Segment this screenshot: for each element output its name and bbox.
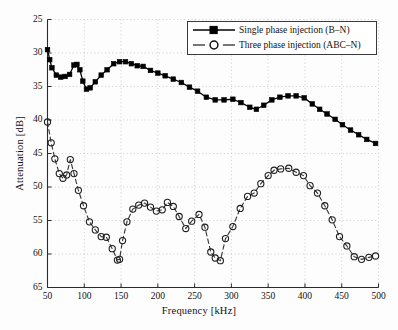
data-point-marker bbox=[159, 207, 165, 213]
data-point-marker bbox=[348, 128, 353, 133]
legend-label-three-phase: Three phase injection (ABC–N) bbox=[236, 40, 361, 50]
data-point-marker bbox=[258, 181, 264, 187]
data-point-marker bbox=[117, 59, 122, 64]
data-point-marker bbox=[300, 173, 306, 179]
data-point-marker bbox=[317, 107, 322, 112]
data-point-marker bbox=[75, 62, 80, 67]
data-point-marker bbox=[358, 256, 364, 262]
data-point-marker bbox=[310, 102, 315, 107]
x-tick-label-200: 200 bbox=[138, 291, 178, 301]
chart-figure: Frequency [kHz] Attenuation [dB] 5010015… bbox=[0, 0, 398, 330]
data-point-marker bbox=[237, 205, 243, 211]
data-series-layer bbox=[44, 47, 378, 263]
data-point-marker bbox=[109, 246, 115, 252]
y-tick-label-45: 45 bbox=[13, 148, 43, 158]
data-point-marker bbox=[71, 171, 77, 177]
x-tick-label-150: 150 bbox=[101, 291, 141, 301]
data-point-marker bbox=[333, 117, 338, 122]
data-point-marker bbox=[213, 98, 218, 103]
data-point-marker bbox=[81, 79, 86, 84]
data-point-marker bbox=[302, 96, 307, 101]
data-point-marker bbox=[48, 140, 54, 146]
data-point-marker bbox=[254, 107, 259, 112]
data-point-marker bbox=[80, 203, 86, 209]
data-point-marker bbox=[67, 156, 73, 162]
data-point-marker bbox=[351, 254, 357, 260]
data-point-marker bbox=[129, 61, 134, 66]
data-point-marker bbox=[217, 258, 223, 264]
data-point-marker bbox=[247, 105, 252, 110]
data-point-marker bbox=[141, 64, 146, 69]
data-point-marker bbox=[294, 94, 299, 99]
series-single-phase bbox=[45, 47, 378, 145]
data-point-marker bbox=[230, 223, 236, 229]
data-point-marker bbox=[202, 224, 208, 230]
data-point-marker bbox=[196, 211, 202, 217]
data-point-marker bbox=[336, 233, 342, 239]
data-point-marker bbox=[153, 208, 159, 214]
y-tick-label-65: 65 bbox=[13, 282, 43, 292]
data-point-marker bbox=[88, 86, 93, 91]
data-point-marker bbox=[93, 80, 98, 85]
data-point-marker bbox=[163, 73, 168, 78]
data-point-marker bbox=[204, 95, 209, 100]
legend-swatch-dashed-circle-line bbox=[192, 38, 236, 52]
data-point-marker bbox=[75, 187, 81, 193]
data-point-marker bbox=[135, 63, 140, 68]
data-point-marker bbox=[119, 238, 125, 244]
data-point-marker bbox=[231, 97, 236, 102]
data-point-marker bbox=[99, 73, 104, 78]
x-tick-label-250: 250 bbox=[175, 291, 215, 301]
data-point-marker bbox=[356, 132, 361, 137]
data-point-marker bbox=[286, 94, 291, 99]
data-point-marker bbox=[47, 57, 52, 62]
data-point-marker bbox=[170, 203, 176, 209]
data-point-marker bbox=[86, 219, 92, 225]
data-point-marker bbox=[366, 254, 372, 260]
y-tick-label-30: 30 bbox=[13, 47, 43, 57]
data-point-marker bbox=[340, 122, 345, 127]
legend-label-single-phase: Single phase injection (B–N) bbox=[236, 25, 350, 35]
data-point-marker bbox=[344, 243, 350, 249]
data-point-marker bbox=[244, 193, 250, 199]
legend-swatch-solid-square-line bbox=[192, 23, 236, 37]
x-tick-label-50: 50 bbox=[28, 291, 68, 301]
data-point-marker bbox=[286, 165, 292, 171]
x-tick-label-400: 400 bbox=[285, 291, 325, 301]
data-point-marker bbox=[54, 73, 59, 78]
data-point-marker bbox=[270, 98, 275, 103]
data-point-marker bbox=[67, 72, 72, 77]
x-tick-label-300: 300 bbox=[211, 291, 251, 301]
data-point-marker bbox=[239, 100, 244, 105]
data-point-marker bbox=[271, 167, 277, 173]
y-tick-label-60: 60 bbox=[13, 248, 43, 258]
data-point-marker bbox=[261, 103, 266, 108]
data-point-marker bbox=[156, 71, 161, 76]
data-point-marker bbox=[265, 173, 271, 179]
y-tick-label-40: 40 bbox=[13, 114, 43, 124]
y-tick-label-55: 55 bbox=[13, 215, 43, 225]
data-point-marker bbox=[45, 47, 50, 52]
data-point-marker bbox=[364, 137, 369, 142]
data-point-marker bbox=[179, 80, 184, 85]
x-tick-label-350: 350 bbox=[248, 291, 288, 301]
data-point-marker bbox=[372, 253, 378, 259]
data-point-marker bbox=[148, 68, 153, 73]
y-tick-label-35: 35 bbox=[13, 81, 43, 91]
data-point-marker bbox=[64, 172, 70, 178]
data-point-marker bbox=[141, 200, 147, 206]
data-point-marker bbox=[187, 85, 192, 90]
legend-entry-single-phase: Single phase injection (B–N) bbox=[188, 22, 376, 37]
x-axis-title: Frequency [kHz] bbox=[0, 305, 398, 316]
data-point-marker bbox=[293, 169, 299, 175]
data-point-marker bbox=[44, 119, 50, 125]
y-tick-label-25: 25 bbox=[13, 14, 43, 24]
data-point-marker bbox=[78, 67, 83, 72]
chart-legend: Single phase injection (B–N) Three phase… bbox=[187, 21, 377, 55]
x-tick-label-100: 100 bbox=[64, 291, 104, 301]
data-point-marker bbox=[176, 213, 182, 219]
x-tick-label-500: 500 bbox=[359, 291, 398, 301]
data-point-marker bbox=[136, 202, 142, 208]
data-point-marker bbox=[322, 203, 328, 209]
data-point-marker bbox=[50, 65, 55, 70]
